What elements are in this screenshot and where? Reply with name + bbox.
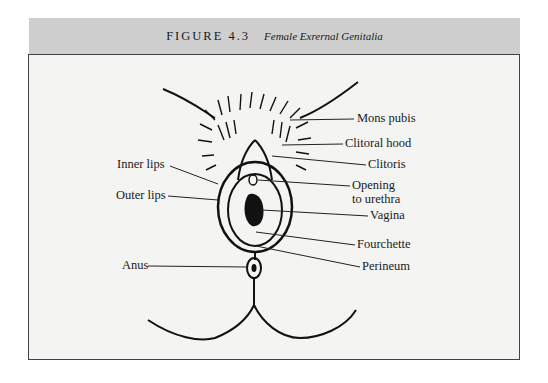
label-anus: Anus: [122, 258, 148, 272]
label-clitoral-hood: Clitoral hood: [345, 136, 411, 150]
label-perineum: Perineum: [362, 259, 410, 273]
label-clitoris: Clitoris: [368, 157, 406, 171]
label-opening-to-urethra: Opening to urethra: [352, 178, 400, 206]
anatomy-illustration: [0, 0, 548, 383]
label-fourchette: Fourchette: [357, 237, 410, 251]
label-inner-lips: Inner lips: [117, 157, 165, 171]
label-opening-line1: Opening: [352, 178, 400, 192]
label-mons-pubis: Mons pubis: [357, 111, 416, 125]
label-outer-lips: Outer lips: [116, 188, 166, 202]
label-opening-line2: to urethra: [352, 192, 400, 206]
label-vagina: Vagina: [370, 208, 405, 222]
